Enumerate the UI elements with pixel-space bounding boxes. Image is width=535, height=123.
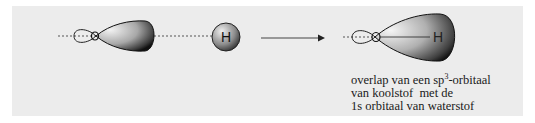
caption: overlap van een sp3-orbitaal van koolsto… [351, 74, 491, 113]
overlap-orbital-right: H [343, 14, 455, 61]
caption-line-3: 1s orbitaal van waterstof [351, 100, 491, 113]
hydrogen-label-right: H [433, 29, 443, 45]
large-front-lobe [96, 21, 154, 51]
small-back-lobe [74, 30, 96, 43]
hydrogen-label: H [221, 29, 231, 45]
hydrogen-1s-orbital: H [212, 23, 240, 51]
reaction-arrow [261, 35, 325, 42]
sp3-orbital-left [58, 21, 215, 51]
